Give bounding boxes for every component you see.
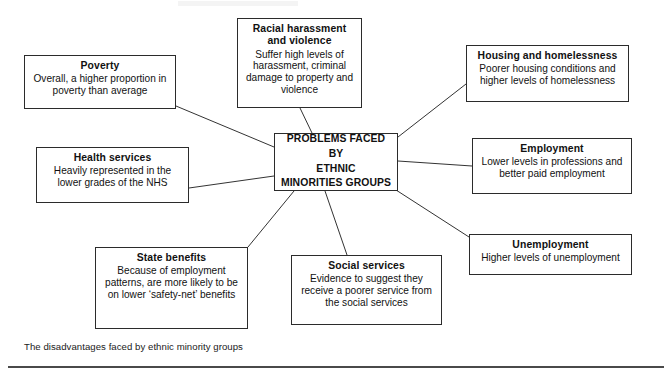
node-state-benefits[interactable]: State benefits Because of employment pat… bbox=[95, 247, 248, 329]
node-racial-harassment-body: Suffer high levels of harassment, crimin… bbox=[243, 49, 356, 97]
node-racial-harassment[interactable]: Racial harassment and violence Suffer hi… bbox=[237, 18, 362, 108]
node-housing[interactable]: Housing and homelessness Poorer housing … bbox=[466, 45, 629, 102]
connector-social bbox=[325, 191, 347, 255]
node-health-services-title: Health services bbox=[42, 152, 183, 164]
page-bottom-rule bbox=[8, 366, 664, 368]
center-node[interactable]: PROBLEMS FACED BY ETHNIC MINORITIES GROU… bbox=[274, 133, 398, 191]
node-employment[interactable]: Employment Lower levels in professions a… bbox=[472, 138, 632, 194]
node-unemployment-body: Higher levels of unemployment bbox=[475, 252, 626, 264]
node-health-services-body: Heavily represented in the lower grades … bbox=[42, 165, 183, 189]
connector-unemployment bbox=[396, 190, 469, 237]
connector-state-benefits bbox=[248, 191, 294, 247]
connector-poverty bbox=[176, 106, 274, 147]
node-poverty[interactable]: Poverty Overall, a higher proportion in … bbox=[24, 55, 176, 109]
node-racial-harassment-title: Racial harassment and violence bbox=[243, 23, 356, 48]
diagram-canvas: PROBLEMS FACED BY ETHNIC MINORITIES GROU… bbox=[0, 0, 672, 373]
node-social-services-title: Social services bbox=[297, 260, 436, 272]
node-state-benefits-body: Because of employment patterns, are more… bbox=[101, 265, 242, 301]
connector-racial bbox=[300, 108, 312, 133]
page-top-artifact bbox=[178, 1, 298, 6]
center-label-line2: ETHNIC bbox=[316, 163, 355, 174]
diagram-caption: The disadvantages faced by ethnic minori… bbox=[24, 341, 243, 352]
node-social-services[interactable]: Social services Evidence to suggest they… bbox=[291, 255, 442, 325]
node-state-benefits-title: State benefits bbox=[101, 252, 242, 264]
node-poverty-title: Poverty bbox=[30, 60, 170, 72]
center-label-line3: MINORITIES GROUPS bbox=[281, 177, 391, 188]
node-health-services[interactable]: Health services Heavily represented in t… bbox=[36, 147, 189, 203]
connector-employment bbox=[398, 161, 472, 166]
node-poverty-body: Overall, a higher proportion in poverty … bbox=[30, 73, 170, 97]
node-unemployment-title: Unemployment bbox=[475, 239, 626, 251]
connector-housing bbox=[398, 84, 466, 137]
node-housing-title: Housing and homelessness bbox=[472, 50, 623, 62]
node-unemployment[interactable]: Unemployment Higher levels of unemployme… bbox=[469, 234, 632, 275]
node-social-services-body: Evidence to suggest they receive a poore… bbox=[297, 273, 436, 309]
node-housing-body: Poorer housing conditions and higher lev… bbox=[472, 63, 623, 87]
center-node-label: PROBLEMS FACED BY ETHNIC MINORITIES GROU… bbox=[280, 132, 392, 191]
center-label-line1: PROBLEMS FACED BY bbox=[287, 133, 385, 159]
node-employment-title: Employment bbox=[478, 143, 626, 155]
node-employment-body: Lower levels in professions and better p… bbox=[478, 156, 626, 180]
connector-health bbox=[189, 176, 274, 188]
